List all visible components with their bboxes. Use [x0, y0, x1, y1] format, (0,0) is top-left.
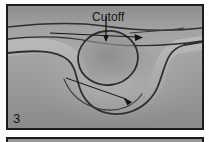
photo-plate-3: Cutoff 3 — [6, 4, 204, 130]
aerial-photograph-next — [8, 139, 202, 142]
photo-plate-4 — [6, 137, 204, 142]
panel-number-3: 3 — [13, 112, 20, 126]
cutoff-label: Cutoff — [92, 11, 124, 24]
figure-sheet: Cutoff 3 — [0, 0, 209, 142]
channel-trace-overlay — [8, 6, 202, 128]
upper-flow-arrow-head — [135, 34, 144, 41]
